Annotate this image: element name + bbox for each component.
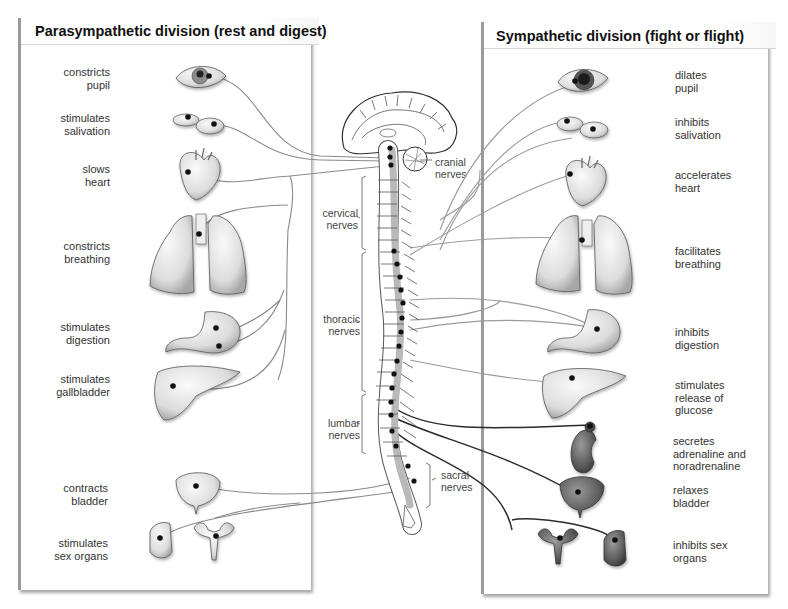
nervous-system-diagram bbox=[0, 0, 788, 609]
stomach-icon bbox=[548, 310, 620, 353]
heart-icon bbox=[566, 156, 606, 206]
female-sex-organ-icon bbox=[194, 523, 234, 560]
symp-organs bbox=[536, 69, 632, 566]
eye-icon bbox=[558, 69, 608, 91]
stomach-icon bbox=[166, 312, 240, 353]
brain-icon bbox=[342, 92, 456, 171]
liver-icon bbox=[542, 369, 626, 419]
lungs-icon bbox=[536, 216, 632, 295]
heart-icon bbox=[180, 148, 220, 200]
female-sex-organ-icon bbox=[538, 529, 578, 564]
liver-icon bbox=[155, 366, 240, 420]
eye-icon bbox=[176, 66, 226, 87]
para-organ-dots bbox=[157, 73, 222, 541]
lungs-icon bbox=[150, 214, 246, 294]
bladder-icon bbox=[560, 477, 604, 518]
spine-icon bbox=[376, 150, 419, 528]
bladder-icon bbox=[176, 473, 220, 514]
male-sex-organ-icon bbox=[604, 530, 626, 566]
kidney-adrenal-icon bbox=[571, 422, 596, 473]
